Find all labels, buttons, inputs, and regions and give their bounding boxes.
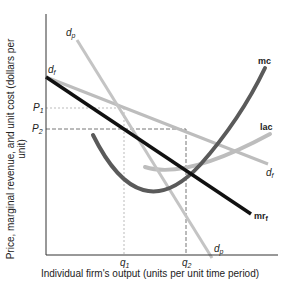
- dp-bottom-label: dp: [214, 243, 224, 256]
- dp-top-label: dp: [66, 27, 76, 40]
- lac-label: lac: [260, 122, 273, 132]
- p2-tick-label: P2: [32, 123, 43, 135]
- x-axis-label: Individual firm's output (units per unit…: [0, 268, 300, 279]
- dp-demand-line: [77, 40, 212, 258]
- y-axis-label: Price, marginal revenue, and unit cost (…: [5, 29, 27, 269]
- df-right-label: df: [266, 167, 275, 179]
- df-left-label: df: [48, 64, 57, 76]
- p1-tick-label: P1: [33, 102, 44, 114]
- mrf-label: mrf: [254, 211, 269, 222]
- diagram-canvas: dp df mc lac df mrf dp P1 P2 q1 q2: [0, 0, 300, 295]
- mc-label: mc: [258, 56, 271, 66]
